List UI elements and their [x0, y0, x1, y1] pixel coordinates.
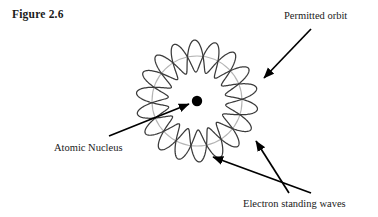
permitted-orbit-arrow	[264, 29, 311, 78]
label-permitted-orbit: Permitted orbit	[284, 11, 347, 22]
electron-standing-waves-arrow-2	[213, 157, 311, 193]
annotation-arrows	[109, 29, 311, 193]
page-title: Figure 2.6	[12, 9, 64, 21]
orbit-group	[137, 40, 258, 162]
label-electron-standing-waves: Electron standing waves	[243, 199, 346, 210]
atom-standing-wave-diagram	[0, 0, 378, 217]
label-atomic-nucleus: Atomic Nucleus	[54, 143, 123, 154]
electron-standing-waves-arrow-1	[256, 141, 289, 193]
atomic-nucleus-arrow	[109, 104, 189, 136]
figure-page: Figure 2.6 Permitted orbit Atomic Nucleu…	[0, 0, 378, 217]
atomic-nucleus-dot	[192, 96, 202, 106]
